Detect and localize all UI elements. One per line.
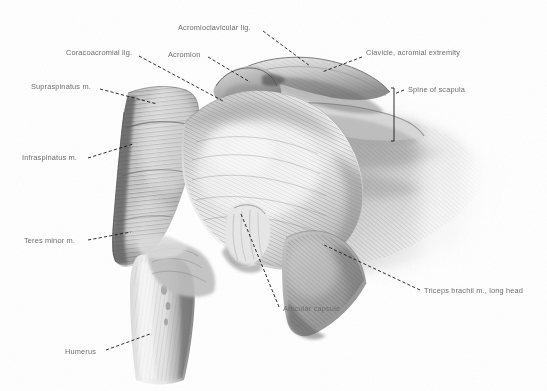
label-articular-capsule: Articular capsule xyxy=(283,304,340,313)
label-infraspinatus-m: Infraspinatus m. xyxy=(22,153,77,162)
label-teres-minor-m: Teres minor m. xyxy=(24,236,75,245)
anatomy-figure: Acromioclavicular lig.Clavicle, acromial… xyxy=(0,0,547,391)
shoulder-illustration xyxy=(0,0,547,391)
label-triceps-brachii-long-head: Triceps brachii m., long head xyxy=(424,286,523,295)
label-coracoacromial-lig: Coracoacromial lig. xyxy=(66,48,132,57)
label-clavicle-acromial-extremity: Clavicle, acromial extremity xyxy=(366,48,460,57)
label-humerus: Humerus xyxy=(65,347,96,356)
label-acromion: Acromion xyxy=(168,50,200,59)
label-spine-of-scapula: Spine of scapula xyxy=(408,85,465,94)
label-acromioclavicular-lig: Acromioclavicular lig. xyxy=(178,23,251,32)
label-supraspinatus-m: Supraspinatus m. xyxy=(31,82,91,91)
